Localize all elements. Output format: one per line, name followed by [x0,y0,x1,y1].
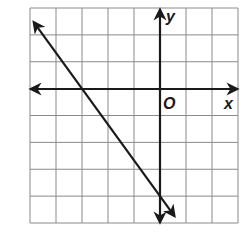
origin-label: O [163,95,176,112]
data-line [34,22,174,215]
coordinate-plane: y x O [0,0,246,243]
x-axis-label: x [223,95,234,112]
y-axis-label: y [165,8,176,25]
grid [30,8,238,223]
